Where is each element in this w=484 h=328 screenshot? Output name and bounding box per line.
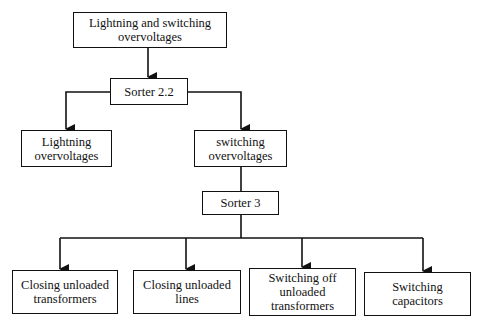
edge-sorter22-switching <box>187 92 241 129</box>
node-lightning-overvoltages: Lightning overvoltages <box>21 130 112 167</box>
node-label: Sorter 2.2 <box>124 85 173 99</box>
node-lightning-and-switching-overvoltages: Lightning and switching overvoltages <box>73 12 227 48</box>
node-sorter-3: Sorter 3 <box>202 191 279 215</box>
node-label: Closing unloaded lines <box>143 278 231 306</box>
node-closing-unloaded-transformers: Closing unloaded transformers <box>12 270 118 314</box>
node-label: switching overvoltages <box>209 135 273 163</box>
node-label: Sorter 3 <box>221 196 261 210</box>
node-closing-unloaded-lines: Closing unloaded lines <box>133 270 241 314</box>
node-switching-capacitors: Switching capacitors <box>364 272 471 316</box>
node-sorter-2-2: Sorter 2.2 <box>110 78 188 105</box>
node-label: Switching off unloaded transformers <box>268 271 336 313</box>
node-label: Closing unloaded transformers <box>21 278 109 306</box>
node-label: Switching capacitors <box>392 280 443 308</box>
node-label: Lightning and switching overvoltages <box>89 16 211 44</box>
edge-sorter22-lightning <box>66 92 110 129</box>
node-label: Lightning overvoltages <box>35 135 99 163</box>
node-switching-off-unloaded-transformers: Switching off unloaded transformers <box>249 268 356 316</box>
node-switching-overvoltages: switching overvoltages <box>194 130 287 167</box>
